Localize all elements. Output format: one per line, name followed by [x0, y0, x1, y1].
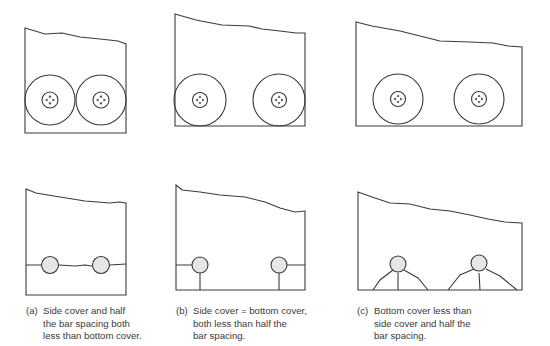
- cover-circle-b1: [174, 74, 226, 126]
- panel-c-top: [356, 22, 522, 126]
- cover-circle-a1: [25, 75, 75, 125]
- panel-b-top: [174, 14, 305, 126]
- bar-a2-top: [93, 92, 109, 108]
- beam-section-b-top: [175, 14, 305, 126]
- splitting-failure-diagram: [0, 0, 550, 346]
- cover-circle-a2: [76, 75, 126, 125]
- bar-a2-bottom: [93, 257, 110, 274]
- beam-section-a-top: [25, 28, 126, 133]
- bar-b2-top: [272, 93, 287, 108]
- caption-c-label: (c): [357, 305, 368, 318]
- cover-circle-c1: [373, 74, 423, 124]
- beam-section-a-bottom: [26, 189, 126, 295]
- beam-section-c-top: [356, 22, 522, 126]
- beam-section-b-bottom: [176, 185, 305, 290]
- bar-b2-bottom: [271, 257, 287, 273]
- bar-a1-top: [42, 92, 58, 108]
- bar-a1-bottom: [42, 257, 59, 274]
- bar-c1-top: [391, 92, 406, 107]
- caption-a-text: Side cover and half the bar spacing both…: [43, 305, 193, 343]
- crack-c1: [373, 270, 428, 290]
- crack-c2: [448, 269, 517, 290]
- bar-b1-top: [193, 93, 208, 108]
- bar-c1-bottom: [390, 256, 406, 272]
- caption-a-label: (a): [26, 305, 38, 318]
- bar-b1-bottom: [192, 257, 208, 273]
- cover-circle-b2: [253, 74, 305, 126]
- cover-circle-c2: [454, 74, 504, 124]
- panel-a-top: [25, 28, 126, 133]
- bar-c2-top: [472, 92, 487, 107]
- caption-b-text: Side cover = bottom cover, both less tha…: [193, 305, 343, 343]
- bar-c2-bottom: [471, 255, 487, 271]
- panel-b-bottom: [176, 185, 305, 290]
- caption-c-text: Bottom cover less than side cover and ha…: [374, 305, 524, 343]
- panel-a-bottom: [26, 189, 126, 295]
- panel-c-bottom: [358, 192, 522, 290]
- caption-b-label: (b): [176, 305, 188, 318]
